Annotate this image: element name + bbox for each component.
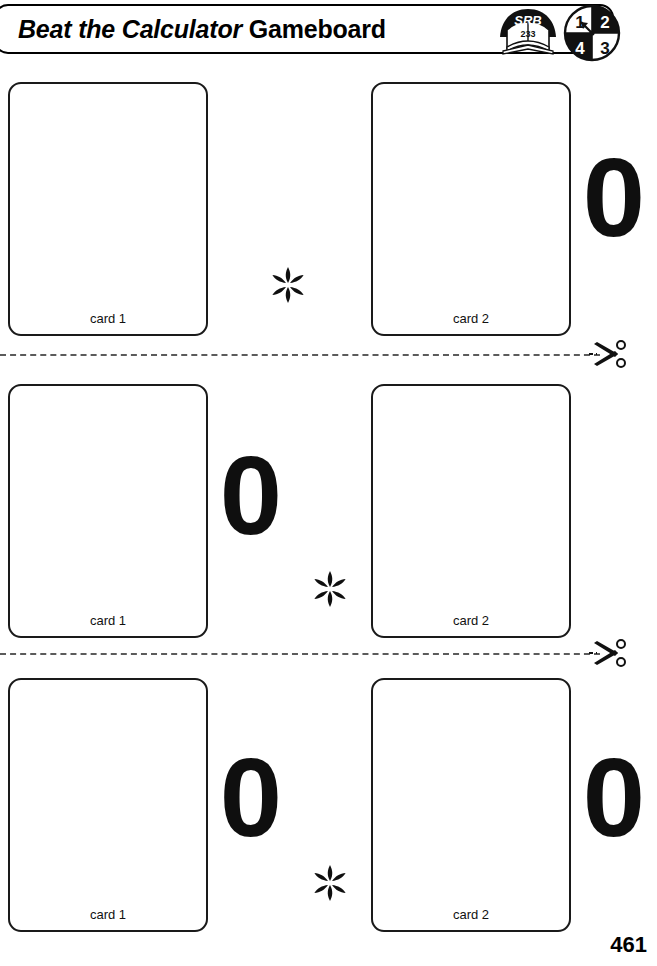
gameboard-row-1: card 1 card 2 — [0, 78, 657, 343]
page-header: Beat the Calculator Gameboard SRB 233 — [0, 4, 657, 56]
card-slot-label: card 2 — [373, 907, 569, 922]
gameboard-row-3: card 1 card 2 — [0, 672, 657, 937]
page-title-suffix: Gameboard — [249, 15, 386, 43]
page-title: Beat the Calculator Gameboard — [18, 12, 386, 48]
card-slot-2[interactable]: card 2 — [371, 82, 571, 336]
card-slot-label: card 1 — [10, 907, 206, 922]
card-slot-1[interactable]: card 1 — [8, 82, 208, 336]
spinner-quadrant-2: 2 — [600, 13, 609, 32]
card-slot-label: card 1 — [10, 613, 206, 628]
page-title-emphasis: Beat the Calculator — [18, 15, 242, 43]
gameboard-row-2: card 1 card 2 — [0, 378, 657, 643]
srb-book-icon: SRB 233 — [497, 6, 559, 58]
multiply-asterisk-icon — [307, 566, 353, 612]
card-slot-2[interactable]: card 2 — [371, 678, 571, 932]
product-zero-row-3-right: 0 — [578, 742, 648, 854]
product-zero-row-1: 0 — [578, 142, 648, 254]
scissors-icon — [588, 636, 628, 670]
card-slot-label: card 2 — [373, 311, 569, 326]
scissors-icon — [588, 337, 628, 371]
spinner-quadrant-4: 4 — [575, 39, 585, 58]
product-zero-row-3-middle: 0 — [215, 742, 285, 854]
card-slot-1[interactable]: card 1 — [8, 384, 208, 638]
card-slot-label: card 1 — [10, 311, 206, 326]
srb-icon-page: 233 — [520, 29, 535, 39]
card-slot-2[interactable]: card 2 — [371, 384, 571, 638]
page-number: 461 — [610, 932, 647, 958]
cut-line-2 — [0, 653, 600, 655]
product-zero-row-2: 0 — [215, 440, 285, 552]
card-slot-1[interactable]: card 1 — [8, 678, 208, 932]
card-slot-label: card 2 — [373, 613, 569, 628]
cut-line-1 — [0, 354, 600, 356]
multiply-asterisk-icon — [265, 262, 311, 308]
multiply-asterisk-icon — [307, 860, 353, 906]
srb-icon-label: SRB — [514, 13, 541, 28]
spinner-quadrant-3: 3 — [600, 39, 609, 58]
spinner-icon: 1 2 3 4 — [563, 4, 621, 62]
